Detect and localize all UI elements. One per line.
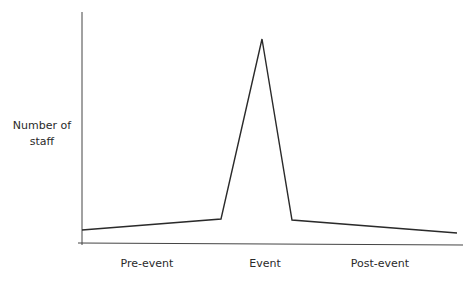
y-axis-label: Number of staff: [4, 118, 80, 150]
x-label-event: Event: [215, 257, 315, 270]
x-label-pre-event: Pre-event: [97, 257, 197, 270]
x-axis: [78, 243, 463, 245]
x-label-post-event: Post-event: [330, 257, 430, 270]
staff-line: [82, 39, 457, 233]
y-axis-label-line1: Number of: [4, 118, 80, 134]
y-axis-label-line2: staff: [4, 134, 80, 150]
